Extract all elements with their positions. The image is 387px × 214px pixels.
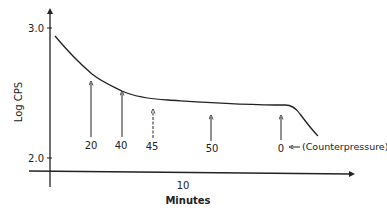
y-tick-label-top: 3.0 — [28, 23, 44, 34]
annotation-label-20: 20 — [85, 140, 98, 151]
counterpressure-label: (Counterpressure) — [302, 141, 387, 152]
x-axis — [29, 171, 352, 174]
annotation-0: 0 (Counterpressure) — [278, 117, 387, 154]
x-axis-title: Minutes — [165, 195, 210, 206]
chart-figure: 3.0 2.0 Log CPS 10 Minutes 20 40 45 50 0… — [0, 0, 387, 214]
annotation-50: 50 — [206, 117, 219, 154]
x-tick-label: 10 — [177, 180, 190, 191]
annotation-label-45: 45 — [146, 141, 159, 152]
y-axis-title: Log CPS — [13, 82, 24, 122]
annotation-20: 20 — [85, 83, 98, 151]
y-tick-label-bottom: 2.0 — [28, 153, 44, 164]
annotation-45: 45 — [146, 111, 159, 152]
annotation-40: 40 — [115, 93, 128, 151]
annotation-label-50: 50 — [206, 143, 219, 154]
data-curve — [55, 36, 318, 136]
annotation-label-40: 40 — [115, 140, 128, 151]
annotation-label-0: 0 — [278, 143, 284, 154]
